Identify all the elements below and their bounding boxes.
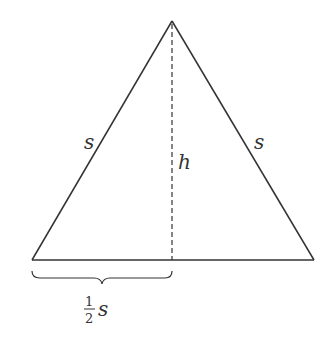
left-side-label: s xyxy=(84,130,94,154)
triangle-diagram: s s h 1 2 s xyxy=(0,0,334,338)
left-side xyxy=(32,21,172,260)
half-base-brace xyxy=(32,271,172,284)
fraction-numerator: 1 xyxy=(85,294,93,309)
half-base-variable: s xyxy=(98,297,108,321)
right-side-label: s xyxy=(254,130,264,154)
height-label: h xyxy=(178,150,191,174)
fraction-denominator: 2 xyxy=(85,311,93,326)
right-side xyxy=(172,21,314,260)
